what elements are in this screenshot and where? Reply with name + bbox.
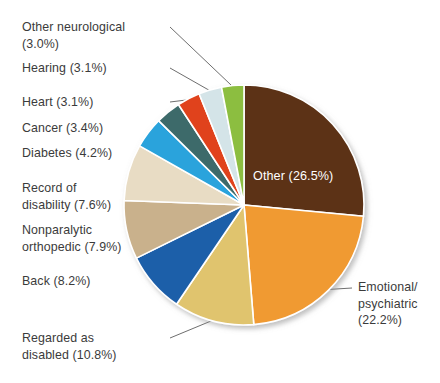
slice-label-heart: Heart (3.1%) xyxy=(22,94,168,111)
slice-label-nonparalytic-orthopedic: Nonparalytic orthopedic (7.9%) xyxy=(22,222,168,255)
pie-slice[interactable] xyxy=(244,85,364,216)
slice-label-cancer: Cancer (3.4%) xyxy=(22,120,168,137)
slice-label-emotional-psychiatric: Emotional/ psychiatric (22.2%) xyxy=(358,279,440,329)
pie-slice[interactable] xyxy=(244,205,363,325)
slice-label-other-neurological: Other neurological (3.0%) xyxy=(22,19,168,52)
slice-label-other: Other (26.5%) xyxy=(253,169,333,183)
pie-chart-figure: Other (26.5%) Emotional/ psychiatric (22… xyxy=(0,0,440,383)
slice-label-back: Back (8.2%) xyxy=(22,273,168,290)
slice-label-hearing: Hearing (3.1%) xyxy=(22,60,168,77)
slice-label-diabetes: Diabetes (4.2%) xyxy=(22,145,168,162)
leader-line xyxy=(170,320,214,338)
leader-line xyxy=(170,27,233,87)
slice-label-regarded-as-disabled: Regarded as disabled (10.8%) xyxy=(22,330,168,363)
leader-line xyxy=(170,68,211,91)
slice-label-record-of-disability: Record of disability (7.6%) xyxy=(22,180,168,213)
